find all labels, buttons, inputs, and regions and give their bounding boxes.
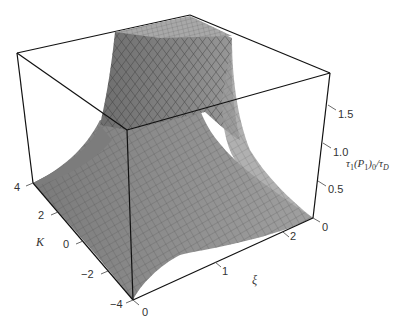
z-tick-label: 0.5: [328, 183, 343, 195]
k-axis-label: K: [35, 235, 45, 249]
xi-tick-label: 1: [222, 265, 228, 277]
xi-axis-label: ξ: [252, 273, 258, 287]
z-tick-label: 1.5: [338, 108, 353, 120]
k-tick-label: 2: [38, 209, 44, 221]
k-tick-label: 4: [14, 181, 20, 193]
xi-tick-label: 0: [142, 306, 148, 318]
xi-tick-label: 2: [290, 230, 296, 242]
z-axis-label: τ1(P1)0/τD: [346, 157, 389, 172]
k-tick-label: −2: [81, 268, 94, 280]
k-tick-label: 0: [63, 238, 69, 250]
z-tick-label: 0: [322, 221, 328, 233]
surface-plot: 1.5 1.0 0.5 0 τ1(P1)0/τD 4 2 0 −2 −4 K 0…: [0, 0, 407, 326]
k-tick-label: −4: [110, 298, 123, 310]
